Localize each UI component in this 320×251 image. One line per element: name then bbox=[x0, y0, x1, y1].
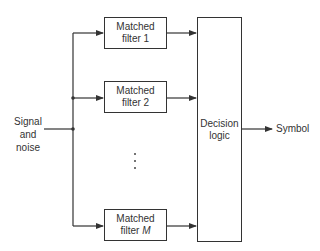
filter-2-line2: filter 2 bbox=[122, 97, 149, 109]
ellipsis-dot bbox=[134, 153, 136, 155]
input-label-line2: and bbox=[10, 128, 46, 141]
input-label: Signal and noise bbox=[10, 115, 46, 154]
decision-line1: Decision bbox=[200, 118, 238, 130]
input-label-line3: noise bbox=[10, 141, 46, 154]
filter-1-prefix: filter bbox=[122, 33, 144, 44]
filter-m-line2: filter M bbox=[120, 225, 150, 237]
matched-filter-2-block: Matched filter 2 bbox=[104, 81, 167, 113]
filter-m-prefix: filter bbox=[120, 225, 142, 236]
filter-2-line1: Matched bbox=[116, 85, 154, 97]
ellipsis-dot bbox=[134, 167, 136, 169]
decision-line2: logic bbox=[209, 130, 230, 142]
filter-m-line1: Matched bbox=[116, 213, 154, 225]
input-label-line1: Signal bbox=[10, 115, 46, 128]
filter-2-prefix: filter bbox=[122, 97, 144, 108]
filter-1-line2: filter 1 bbox=[122, 33, 149, 45]
output-label: Symbol bbox=[276, 122, 316, 135]
ellipsis-dot bbox=[134, 160, 136, 162]
matched-filter-m-block: Matched filter M bbox=[104, 209, 167, 241]
decision-logic-block: Decision logic bbox=[197, 17, 242, 242]
filter-1-index: 1 bbox=[144, 33, 150, 44]
filter-1-line1: Matched bbox=[116, 21, 154, 33]
matched-filter-1-block: Matched filter 1 bbox=[104, 17, 167, 49]
filter-2-index: 2 bbox=[144, 97, 150, 108]
filter-m-index: M bbox=[142, 225, 150, 236]
